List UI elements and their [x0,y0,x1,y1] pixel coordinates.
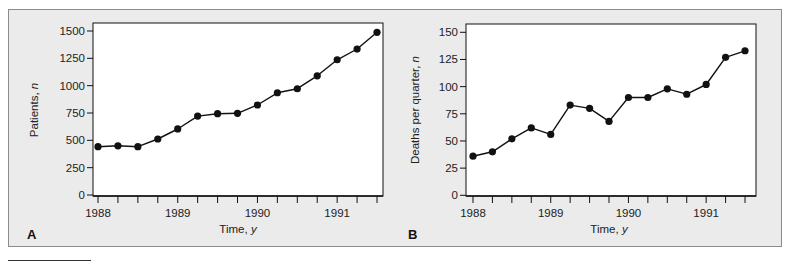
x-tick-label: 1991 [693,207,719,219]
data-point-marker [508,135,515,142]
y-tick-label: 0 [79,189,85,201]
data-point-marker [353,45,360,52]
data-point-marker [254,101,261,108]
data-point-marker [174,125,181,132]
x-tick-label: 1989 [165,207,191,219]
x-axis-label-a: Time, y [219,223,258,235]
chart-panel-b: 0255075100125150 1988198919901991 Deaths… [408,24,756,242]
x-tick-label: 1988 [85,207,111,219]
y-tick-label: 250 [66,162,85,174]
data-point-marker [469,153,476,160]
plot-area-a [93,23,383,196]
y-tick-label: 75 [445,108,458,120]
data-point-marker [722,54,729,61]
data-point-marker [294,85,301,92]
y-tick-label: 1500 [59,25,85,37]
y-tick-label: 50 [445,135,458,147]
panel-label-a: A [27,227,37,242]
data-point-marker [314,72,321,79]
y-tick-label: 100 [439,81,458,93]
y-axis-label-b: Deaths per quarter, n [409,56,421,164]
y-tick-label: 25 [445,162,458,174]
y-tick-label: 1250 [59,52,85,64]
data-point-marker [644,94,651,101]
x-axis-a: 1988198919901991 [85,196,377,219]
data-point-marker [586,105,593,112]
y-tick-label: 500 [66,134,85,146]
x-tick-label: 1990 [245,207,271,219]
data-point-marker [664,85,671,92]
data-point-marker [134,143,141,150]
data-point-marker [214,110,221,117]
x-tick-label: 1990 [616,207,642,219]
x-tick-label: 1988 [460,207,486,219]
data-point-marker [528,124,535,131]
data-point-marker [114,142,121,149]
data-point-marker [373,29,380,36]
x-tick-label: 1989 [538,207,564,219]
data-point-marker [274,89,281,96]
data-point-marker [489,148,496,155]
data-point-marker [234,110,241,117]
figure-svg: 0250500750100012501500 1988198919901991 … [0,0,793,262]
x-axis-b: 1988198919901991 [460,196,745,219]
data-point-marker [94,143,101,150]
data-point-marker [625,94,632,101]
data-point-marker [547,131,554,138]
x-tick-label: 1991 [324,207,350,219]
y-axis-label-a: Patients, n [28,83,40,137]
chart-panel-a: 0250500750100012501500 1988198919901991 … [27,23,383,242]
x-axis-label-b: Time, y [590,223,629,235]
data-point-marker [605,118,612,125]
data-point-marker [683,91,690,98]
y-tick-label: 150 [439,26,458,38]
y-tick-label: 0 [452,189,458,201]
plot-area-b [466,24,756,196]
data-point-marker [703,81,710,88]
data-point-marker [741,47,748,54]
data-point-marker [154,135,161,142]
y-tick-label: 125 [439,53,458,65]
y-tick-label: 750 [66,107,85,119]
panel-label-b: B [408,227,417,242]
data-point-marker [334,56,341,63]
data-point-marker [194,112,201,119]
y-tick-label: 1000 [59,80,85,92]
data-point-marker [567,102,574,109]
